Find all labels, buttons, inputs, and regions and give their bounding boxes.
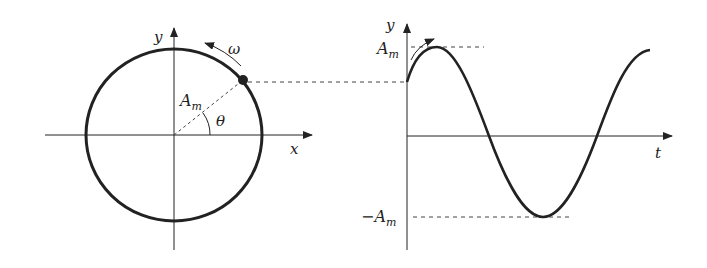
radius-label: Am bbox=[178, 91, 202, 113]
start-arrow bbox=[411, 39, 434, 60]
theta-arc bbox=[203, 113, 210, 135]
y-axis-label: y bbox=[153, 28, 163, 46]
theta-label: θ bbox=[216, 112, 225, 130]
sine-curve bbox=[407, 47, 650, 217]
phasor-point bbox=[238, 75, 248, 85]
max-label: Am bbox=[375, 39, 399, 61]
min-label: −Am bbox=[361, 207, 396, 229]
y-axis-label-right: y bbox=[385, 16, 395, 34]
waveform-panel: y t Am −Am bbox=[361, 16, 672, 250]
x-axis-label: x bbox=[290, 140, 299, 158]
phasor-diagram: y x ω θ Am y t Am −Am bbox=[0, 0, 707, 268]
t-axis-label: t bbox=[655, 144, 662, 162]
omega-label: ω bbox=[228, 40, 240, 58]
circle-panel: y x ω θ Am bbox=[45, 28, 407, 250]
